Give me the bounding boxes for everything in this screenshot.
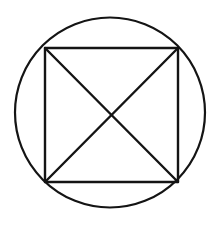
geometric-figure xyxy=(0,0,219,225)
